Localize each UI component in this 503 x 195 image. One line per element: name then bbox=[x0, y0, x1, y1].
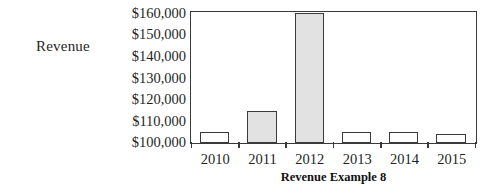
revenue-bar-chart-figure: Revenue $160,000$150,000$140,000$130,000… bbox=[0, 0, 503, 195]
x-axis-label-2010: 2010 bbox=[192, 150, 239, 168]
y-axis-tick-label: $160,000 bbox=[104, 5, 186, 21]
y-axis-tick-labels: $160,000$150,000$140,000$130,000$120,000… bbox=[104, 24, 186, 150]
y-axis-tick-label: $120,000 bbox=[104, 91, 186, 107]
x-axis-tick-mark bbox=[427, 142, 429, 148]
y-axis-tick-label: $100,000 bbox=[104, 134, 186, 150]
x-axis-tick-mark bbox=[238, 142, 240, 148]
y-axis-caption: Revenue bbox=[18, 38, 108, 55]
x-axis-tick-mark bbox=[333, 142, 335, 148]
x-axis-label-2013: 2013 bbox=[334, 150, 381, 168]
chart-title: Revenue Example 8 bbox=[190, 170, 477, 185]
plot-inner-surface bbox=[191, 12, 476, 143]
plot-area bbox=[190, 11, 477, 144]
y-axis-tick-label: $110,000 bbox=[104, 113, 186, 129]
x-axis-tick-mark bbox=[191, 142, 193, 148]
x-axis-label-2012: 2012 bbox=[286, 150, 333, 168]
bar-2012 bbox=[295, 13, 324, 143]
x-axis-tick-marks bbox=[190, 142, 477, 149]
x-axis-tick-mark bbox=[475, 142, 477, 148]
x-axis-tick-mark bbox=[380, 142, 382, 148]
x-axis-label-2011: 2011 bbox=[239, 150, 286, 168]
y-axis-tick-label: $130,000 bbox=[104, 70, 186, 86]
bar-2011 bbox=[247, 111, 276, 143]
x-axis-tick-mark bbox=[285, 142, 287, 148]
x-axis-category-labels: 201020112012201320142015 bbox=[190, 150, 477, 170]
y-axis-tick-label: $140,000 bbox=[104, 48, 186, 64]
x-axis-label-2015: 2015 bbox=[428, 150, 475, 168]
x-axis-label-2014: 2014 bbox=[381, 150, 428, 168]
y-axis-tick-label: $150,000 bbox=[104, 26, 186, 42]
